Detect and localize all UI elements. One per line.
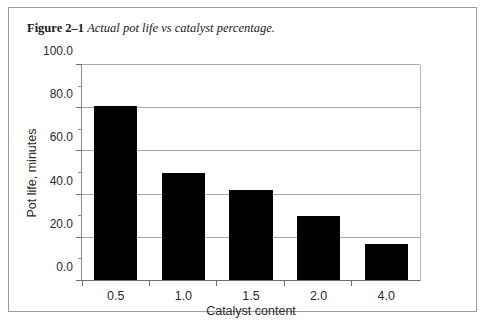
bar-group: 0.5 1.0 1.5 2.0 xyxy=(82,65,420,281)
x-tick xyxy=(216,281,217,286)
figure-frame: Figure 2–1 Actual pot life vs catalyst p… xyxy=(8,7,477,312)
bar-slot: 4.0 xyxy=(352,65,420,281)
x-tick-label-0: 0.5 xyxy=(107,289,124,303)
x-tick-label-1: 1.0 xyxy=(175,289,192,303)
figure-caption-label: Figure 2–1 xyxy=(27,21,84,35)
y-tick-label-40: 40.0 xyxy=(50,174,73,188)
bar-1[interactable] xyxy=(162,173,205,281)
y-tick-label-80: 80.0 xyxy=(50,87,73,101)
x-tick xyxy=(284,281,285,286)
bar-slot: 1.0 xyxy=(150,65,218,281)
bar-4[interactable] xyxy=(365,244,408,281)
y-axis-title: Pot life, minutes xyxy=(25,65,43,281)
plot-wrapper: 0.0 20.0 40.0 60.0 80.0 100.0 0.5 xyxy=(81,65,421,281)
x-tick-label-3: 2.0 xyxy=(310,289,327,303)
plot-area: 0.0 20.0 40.0 60.0 80.0 100.0 0.5 xyxy=(81,65,421,281)
figure-caption: Figure 2–1 Actual pot life vs catalyst p… xyxy=(27,21,275,36)
x-tick xyxy=(149,281,150,286)
bar-slot: 2.0 xyxy=(285,65,353,281)
x-tick-label-2: 1.5 xyxy=(242,289,259,303)
x-tick-start xyxy=(82,281,83,286)
bar-0[interactable] xyxy=(94,106,137,281)
x-tick-label-4: 4.0 xyxy=(377,289,394,303)
figure-caption-text: Actual pot life vs catalyst percentage. xyxy=(87,21,275,35)
bar-slot: 0.5 xyxy=(82,65,150,281)
x-tick xyxy=(351,281,352,286)
y-tick-label-20: 20.0 xyxy=(50,217,73,231)
bar-2[interactable] xyxy=(229,190,272,281)
y-tick-label-100: 100.0 xyxy=(43,44,73,58)
y-tick-label-60: 60.0 xyxy=(50,130,73,144)
x-axis-line xyxy=(82,280,420,281)
figure-container: Figure 2–1 Actual pot life vs catalyst p… xyxy=(0,0,485,327)
y-tick-label-0: 0.0 xyxy=(56,260,73,274)
bar-slot: 1.5 xyxy=(217,65,285,281)
bar-3[interactable] xyxy=(297,216,340,281)
x-axis-title: Catalyst content xyxy=(81,304,421,318)
